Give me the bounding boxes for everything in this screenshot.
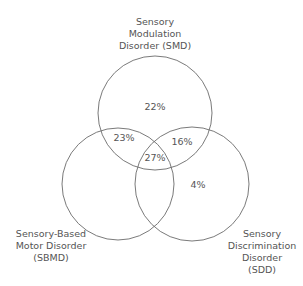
label-smd-line3: Disorder (SMD) bbox=[105, 40, 205, 52]
label-sdd-line1: Sensory bbox=[222, 228, 302, 240]
circle-sbmd bbox=[62, 128, 174, 240]
label-smd-line2: Modulation bbox=[105, 28, 205, 40]
label-sdd-line3: Disorder bbox=[222, 252, 302, 264]
region-smd-sbmd: 23% bbox=[113, 132, 134, 143]
region-all-three: 27% bbox=[144, 152, 165, 163]
region-smd-sdd: 16% bbox=[171, 136, 192, 147]
label-sbmd-line2: Motor Disorder bbox=[6, 240, 96, 252]
label-sbmd-line1: Sensory-Based bbox=[6, 228, 96, 240]
label-smd-line1: Sensory bbox=[105, 16, 205, 28]
region-sdd-only: 4% bbox=[190, 179, 205, 190]
label-sdd-line2: Discrimination bbox=[222, 240, 302, 252]
label-sbmd: Sensory-Based Motor Disorder (SBMD) bbox=[6, 228, 96, 264]
label-sbmd-line3: (SBMD) bbox=[6, 252, 96, 264]
label-sdd: Sensory Discrimination Disorder (SDD) bbox=[222, 228, 302, 276]
label-smd: Sensory Modulation Disorder (SMD) bbox=[105, 16, 205, 52]
region-smd-only: 22% bbox=[144, 101, 165, 112]
label-sdd-line4: (SDD) bbox=[222, 264, 302, 276]
